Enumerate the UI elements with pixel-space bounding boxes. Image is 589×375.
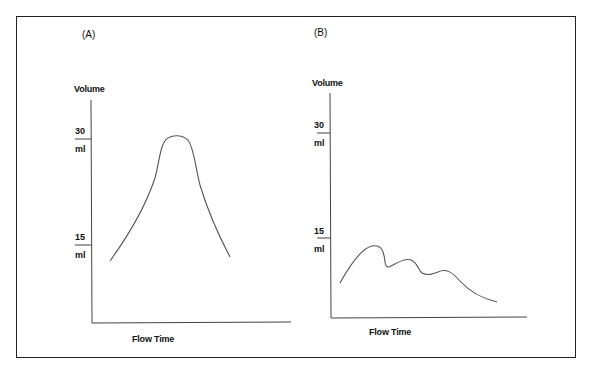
panel-b-curve [340, 246, 497, 302]
panel-a-curve [110, 136, 230, 261]
panel-a-axes [75, 100, 291, 323]
panel-b-axes [317, 93, 527, 318]
figure-graphics [0, 0, 589, 375]
